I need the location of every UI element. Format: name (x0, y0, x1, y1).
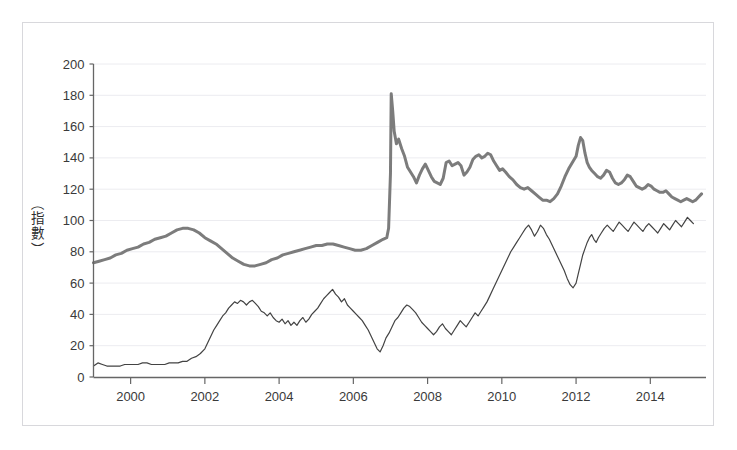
y-tick-label: 120 (63, 182, 85, 197)
x-tick-label: 2008 (413, 389, 442, 404)
x-tick-label: 2014 (636, 389, 665, 404)
y-tick-label: 80 (70, 244, 84, 259)
y-tick-labels-group: 020406080100120140160180200 (63, 57, 85, 385)
x-tick-label: 2000 (116, 389, 145, 404)
gridlines-group (94, 64, 707, 346)
x-tick-label: 2006 (339, 389, 368, 404)
x-tick-label: 2004 (265, 389, 294, 404)
y-tick-label: 0 (77, 370, 84, 385)
y-tick-label: 100 (63, 213, 85, 228)
y-axis-title-char-0: （ (30, 193, 45, 215)
chart-page: 020406080100120140160180200 200020022004… (0, 0, 737, 450)
y-tick-label: 40 (70, 307, 84, 322)
y-tick-label: 20 (70, 338, 84, 353)
series-thin-dark (94, 217, 694, 366)
y-tick-label: 160 (63, 119, 85, 134)
x-tick-label: 2010 (487, 389, 516, 404)
y-tick-label: 200 (63, 57, 85, 72)
line-chart: 020406080100120140160180200 200020022004… (0, 0, 737, 450)
y-tick-label: 60 (70, 276, 84, 291)
x-tick-label: 2012 (562, 389, 591, 404)
y-tick-label: 140 (63, 150, 85, 165)
x-tick-label: 2002 (190, 389, 219, 404)
y-axis-title: （ 指 數 ） (26, 196, 48, 256)
y-tick-label: 180 (63, 88, 85, 103)
series-thick-gray (94, 94, 702, 266)
series-paths-group (94, 94, 702, 366)
y-axis-title-char-3: ） (30, 238, 45, 260)
x-tick-labels-group: 20002002200420062008201020122014 (116, 389, 665, 404)
